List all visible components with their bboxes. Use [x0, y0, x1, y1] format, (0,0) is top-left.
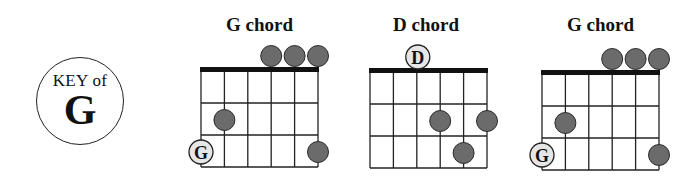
open-string-dot [625, 49, 646, 70]
finger-dot [453, 143, 474, 164]
root-note-label: G [194, 143, 208, 163]
finger-dot [477, 111, 498, 132]
finger-dot [430, 111, 451, 132]
open-string-dot [284, 46, 305, 67]
root-note-label: G [535, 146, 549, 166]
finger-dot [308, 142, 329, 163]
nut-bar [541, 70, 660, 75]
finger-dot [555, 113, 576, 134]
open-string-dot [261, 46, 282, 67]
finger-dot [649, 145, 670, 166]
chord-diagrams: GDG [0, 0, 699, 181]
chord-diagram: G [189, 46, 329, 168]
nut-bar [369, 68, 488, 73]
chord-diagram: D [369, 45, 498, 168]
root-note-label: D [411, 48, 424, 68]
open-string-dot [649, 49, 670, 70]
open-string-dot [602, 49, 623, 70]
finger-dot [214, 110, 235, 131]
chord-diagram: G [530, 49, 670, 171]
nut-bar [200, 67, 319, 72]
open-string-dot [308, 46, 329, 67]
